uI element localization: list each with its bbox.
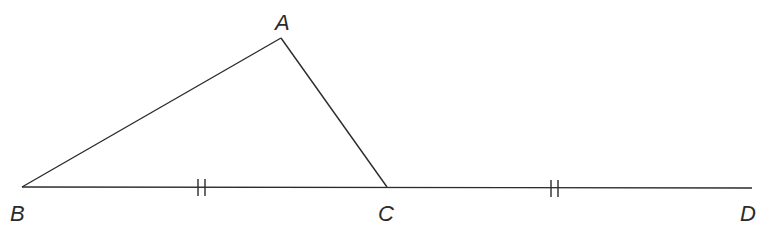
segment-ac [281,38,387,187]
point-label-d: D [740,203,756,225]
point-label-a: A [275,12,290,34]
segment-bd [22,187,752,188]
segment-ba [22,38,281,187]
geometry-diagram: A B C D [0,0,766,242]
point-label-c: C [378,203,394,225]
point-label-b: B [10,203,25,225]
congruence-mark-cd [551,180,558,197]
